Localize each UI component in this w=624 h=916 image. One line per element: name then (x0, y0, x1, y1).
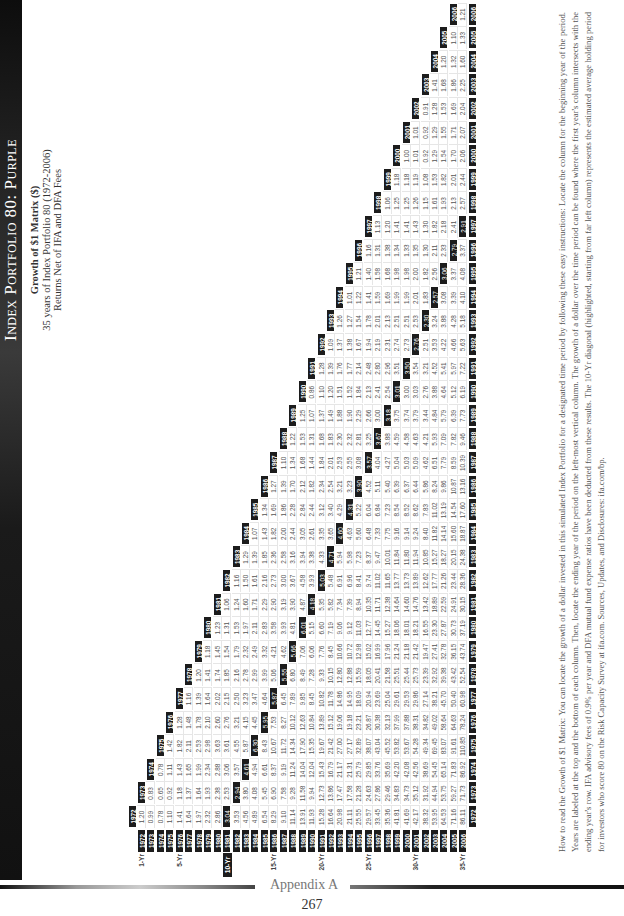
matrix-cell: 43.74 (458, 640, 467, 663)
matrix-cell: 60.98 (458, 687, 467, 710)
matrix-cell: 1.48 (184, 711, 193, 734)
matrix-cell: 1.97 (241, 616, 250, 639)
matrix-cell: 1.53 (232, 616, 241, 639)
matrix-cell: 1.41 (392, 215, 401, 238)
matrix-cell: 5.03 (317, 569, 326, 592)
matrix-cell: 2.99 (250, 663, 259, 686)
matrix-cell: 37.88 (402, 711, 411, 734)
page-number: 267 (0, 897, 624, 913)
matrix-cell: 2.15 (222, 687, 231, 710)
matrix-cell: 1.88 (335, 404, 344, 427)
matrix-cell: 8.62 (411, 498, 420, 521)
start-year-header: 1998 (373, 191, 382, 214)
matrix-cell: 9.06 (335, 616, 344, 639)
page-title: Index Portfolio 80: Purple (1, 40, 21, 440)
matrix-cell: 3.00 (279, 569, 288, 592)
matrix-cell: 17.47 (335, 781, 344, 804)
matrix-cell: 4.61 (241, 758, 250, 781)
start-year-footer: 1987 (468, 451, 477, 474)
matrix-cell: 11.03 (354, 616, 363, 639)
matrix-cell: 1.41 (364, 286, 373, 309)
matrix-cell: 3.21 (335, 475, 344, 498)
start-year-header: 1976 (165, 711, 174, 734)
matrix-cell: 3.00 (402, 380, 411, 403)
end-year-label: 1996 (364, 829, 373, 853)
matrix-cell: 19.06 (335, 711, 344, 734)
matrix-cell: 2.01 (411, 286, 420, 309)
start-year-footer: 2006 (468, 3, 477, 26)
matrix-cell: 1.37 (335, 333, 344, 356)
matrix-cell: 0.86 (307, 380, 316, 403)
matrix-cell: 2.01 (373, 309, 382, 332)
matrix-cell: 5.60 (354, 522, 363, 545)
matrix-cell: 35.36 (383, 805, 392, 828)
matrix-cell: 7.82 (449, 427, 458, 450)
matrix-cell: 7.34 (335, 593, 344, 616)
matrix-cell: 1.61 (430, 191, 439, 214)
matrix-cell: 3.57 (364, 451, 373, 474)
matrix-cell: 45.52 (383, 734, 392, 757)
start-year-footer: 1982 (468, 569, 477, 592)
matrix-cell: 1.64 (194, 781, 203, 804)
start-year-header: 1978 (184, 663, 193, 686)
matrix-cell: 1.18 (392, 168, 401, 191)
matrix-cell: 2.18 (439, 215, 448, 238)
matrix-cell: 17.58 (345, 781, 354, 804)
matrix-cell: 1.18 (203, 640, 212, 663)
matrix-cell: 2.32 (203, 805, 212, 828)
matrix-cell: 15.02 (364, 640, 373, 663)
matrix-cell: 1.74 (213, 663, 222, 686)
matrix-cell: 0.92 (421, 144, 430, 167)
matrix-cell: 10.72 (345, 640, 354, 663)
matrix-cell: 8.49 (298, 663, 307, 686)
matrix-cell: 10.66 (335, 640, 344, 663)
matrix-cell: 2.53 (335, 451, 344, 474)
matrix-cell: 20.15 (449, 545, 458, 568)
matrix-cell: 86.92 (458, 758, 467, 781)
matrix-cell: 0.92 (421, 121, 430, 144)
start-year-header: 1981 (213, 593, 222, 616)
matrix-cell: 5.95 (260, 711, 269, 734)
matrix-cell: 3.90 (288, 593, 297, 616)
start-year-footer: 1989 (468, 404, 477, 427)
matrix-cell: 2.53 (222, 781, 231, 804)
matrix-cell: 5.22 (354, 498, 363, 521)
matrix-cell: 7.23 (383, 498, 392, 521)
end-year-label: 1978 (194, 829, 203, 853)
matrix-cell: 1.68 (298, 451, 307, 474)
matrix-cell: 1.71 (250, 593, 259, 616)
matrix-cell: 8.45 (326, 640, 335, 663)
matrix-cell: 2.01 (326, 451, 335, 474)
matrix-cell: 1.39 (250, 545, 259, 568)
matrix-cell: 23.39 (421, 663, 430, 686)
matrix-cell: 1.34 (288, 451, 297, 474)
matrix-cell: 9.12 (345, 616, 354, 639)
matrix-cell: 13.77 (392, 569, 401, 592)
matrix-cell: 2.50 (232, 687, 241, 710)
start-year-header: 1979 (194, 640, 203, 663)
matrix-cell: 1.26 (411, 191, 420, 214)
explanation-text: How to read the Growth of $1 Matrix: You… (556, 12, 608, 852)
matrix-cell: 23.69 (373, 687, 382, 710)
end-year-label: 1994 (345, 829, 354, 853)
matrix-cell: 30.38 (373, 711, 382, 734)
matrix-cell: 14.76 (411, 593, 420, 616)
matrix-cell: 23.44 (449, 569, 458, 592)
matrix-cell: 41.69 (402, 805, 411, 828)
matrix-cell: 1.84 (317, 451, 326, 474)
matrix-cell: 2.61 (307, 522, 316, 545)
matrix-cell: 1.16 (364, 239, 373, 262)
start-year-footer: 1990 (468, 380, 477, 403)
start-year-header: 1992 (317, 333, 326, 356)
matrix-cell: 18.05 (364, 663, 373, 686)
matrix-cell: 2.84 (298, 498, 307, 521)
matrix-cell: 12.80 (335, 663, 344, 686)
matrix-cell: 11.78 (326, 687, 335, 710)
matrix-cell: 1.98 (392, 262, 401, 285)
matrix-cell: 2.78 (241, 663, 250, 686)
matrix-cell: 2.30 (335, 427, 344, 450)
matrix-cell: 2.53 (194, 734, 203, 757)
matrix-cell: 42.56 (411, 758, 420, 781)
matrix-cell: 2.11 (430, 239, 439, 262)
matrix-cell: 6.45 (279, 687, 288, 710)
